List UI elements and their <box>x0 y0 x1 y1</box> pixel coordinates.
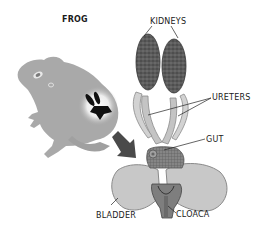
kidney-left <box>136 34 160 90</box>
pointer-arrow-icon <box>112 131 136 158</box>
label-kidneys: KIDNEYS <box>150 18 186 26</box>
kidney-right <box>162 39 186 93</box>
diagram-canvas <box>0 0 268 232</box>
ureters <box>133 92 188 144</box>
label-cloaca: CLOACA <box>176 211 210 219</box>
label-bladder: BLADDER <box>96 212 136 220</box>
kidneys <box>136 34 186 93</box>
label-ureters: URETERS <box>212 94 250 102</box>
frog-title: FROG <box>62 16 88 24</box>
label-gut: GUT <box>206 136 224 144</box>
frog-silhouette <box>18 57 119 158</box>
frog-urinary-diagram: FROG KIDNEYS URETERS GUT BLADDER CLOACA <box>0 0 268 232</box>
